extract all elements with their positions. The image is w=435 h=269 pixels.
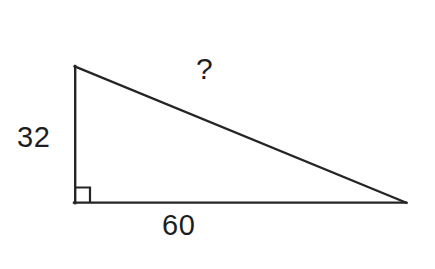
horizontal-leg-label: 60 bbox=[162, 211, 195, 240]
vertical-leg-label: 32 bbox=[17, 123, 50, 152]
diagram-canvas: 32 60 ? bbox=[0, 0, 435, 269]
right-triangle-figure bbox=[0, 0, 435, 269]
hypotenuse-label: ? bbox=[196, 54, 213, 84]
hypotenuse-line bbox=[75, 66, 407, 202]
right-angle-marker-icon bbox=[76, 188, 91, 203]
